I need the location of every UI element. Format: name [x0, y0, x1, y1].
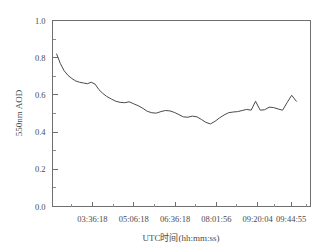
- plot-frame: [53, 21, 311, 207]
- x-tick-label: 09:44:55: [276, 214, 306, 224]
- x-tick-label: 09:20:04: [242, 214, 273, 224]
- chart-figure: 0.00.20.40.60.81.0 03:36:1805:06:1806:36…: [0, 0, 327, 252]
- x-tick-label: 05:06:18: [119, 214, 149, 224]
- y-tick-label: 0.0: [35, 202, 46, 212]
- x-axis-tick-labels: 03:36:1805:06:1806:36:1808:01:5609:20:04…: [77, 214, 306, 224]
- aod-time-series-chart: 0.00.20.40.60.81.0 03:36:1805:06:1806:36…: [0, 0, 327, 252]
- x-tick-label: 06:36:18: [160, 214, 190, 224]
- y-tick-label: 0.8: [35, 53, 46, 63]
- y-axis-tick-labels: 0.00.20.40.60.81.0: [35, 16, 46, 212]
- x-tick-label: 08:01:56: [201, 214, 231, 224]
- y-tick-label: 0.6: [35, 90, 46, 100]
- x-axis-major-ticks: [92, 202, 291, 207]
- x-axis-title: UTC时间(hh:mm:ss): [142, 232, 219, 243]
- y-tick-label: 1.0: [35, 16, 46, 26]
- data-series-group: [57, 54, 297, 124]
- y-tick-label: 0.2: [35, 164, 46, 174]
- series-line-550nm-aod: [57, 54, 297, 124]
- y-tick-label: 0.4: [35, 127, 46, 137]
- axes-frame: [53, 21, 311, 207]
- y-axis-title: 550nm AOD: [14, 89, 24, 136]
- x-tick-label: 03:36:18: [77, 214, 107, 224]
